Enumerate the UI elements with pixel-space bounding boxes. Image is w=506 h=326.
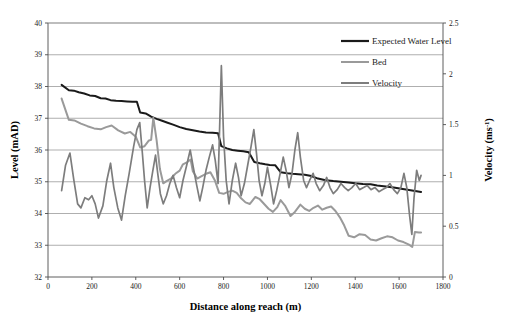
y-tick-label-left: 36 <box>35 146 43 155</box>
x-tick-label: 1600 <box>392 282 407 291</box>
y-tick-label-left: 38 <box>35 82 43 91</box>
x-tick-label: 1200 <box>304 282 319 291</box>
y-tick-label-left: 40 <box>35 19 43 28</box>
y-tick-label-right: 0.5 <box>449 222 459 231</box>
y-tick-label-left: 33 <box>35 241 43 250</box>
x-tick-label: 1400 <box>348 282 363 291</box>
line-chart: 32333435363738394000.511.522.50200400600… <box>0 0 506 326</box>
y-tick-label-right: 0 <box>449 273 453 282</box>
chart-figure: 32333435363738394000.511.522.50200400600… <box>0 0 506 326</box>
y-tick-label-right: 1.5 <box>449 120 459 129</box>
x-axis-title: Distance along reach (m) <box>190 301 302 313</box>
y-tick-label-left: 34 <box>35 209 43 218</box>
x-tick-label: 800 <box>218 282 230 291</box>
legend-label-bed: Bed <box>372 57 387 67</box>
x-tick-label: 0 <box>46 282 50 291</box>
y-tick-label-right: 2.5 <box>449 19 459 28</box>
y-axis-title-left: Level (mAD) <box>9 120 21 179</box>
y-tick-label-left: 32 <box>35 273 43 282</box>
x-tick-label: 400 <box>130 282 142 291</box>
x-tick-label: 600 <box>174 282 186 291</box>
y-tick-label-left: 37 <box>35 114 43 123</box>
legend-label-expected-water-level: Expected Water Level <box>372 36 452 46</box>
legend-label-velocity: Velocity <box>372 78 402 88</box>
y-tick-label-left: 35 <box>35 177 43 186</box>
y-tick-label-right: 2 <box>449 70 453 79</box>
y-tick-label-right: 1 <box>449 171 453 180</box>
x-tick-label: 1000 <box>260 282 275 291</box>
x-tick-label: 200 <box>86 282 98 291</box>
y-tick-label-left: 39 <box>35 50 43 59</box>
y-axis-title-right: Velocity (ms-1) <box>483 118 496 182</box>
x-tick-label: 1800 <box>436 282 451 291</box>
